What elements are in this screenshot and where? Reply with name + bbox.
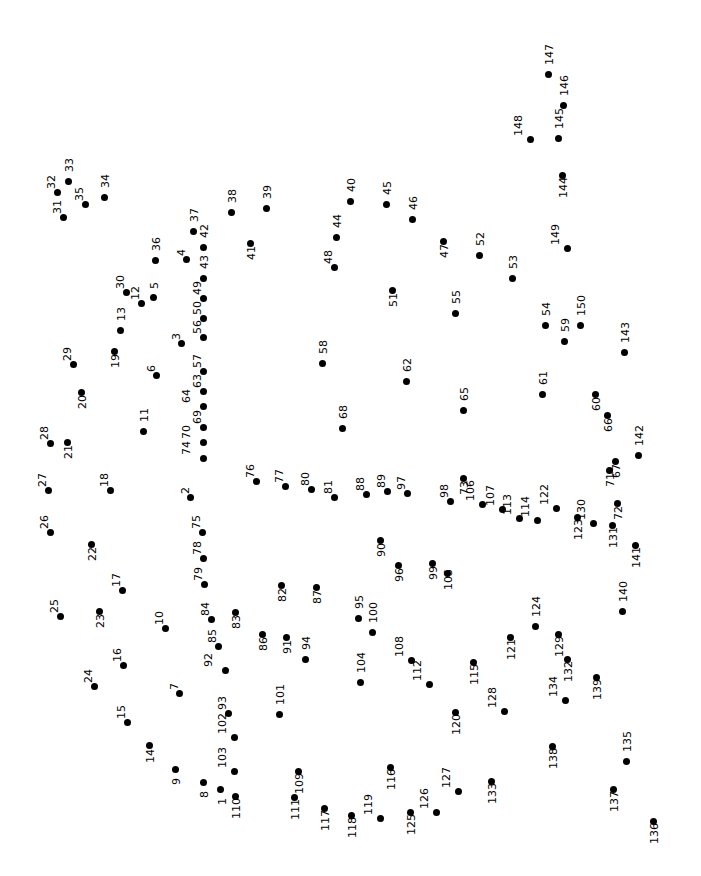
- dot-marker-29[interactable]: [70, 361, 77, 368]
- dot-marker-127[interactable]: [455, 788, 462, 795]
- dot-marker-81[interactable]: [331, 494, 338, 501]
- dot-marker-85[interactable]: [215, 643, 222, 650]
- dot-marker-38[interactable]: [228, 209, 235, 216]
- dot-marker-100[interactable]: [369, 629, 376, 636]
- dot-marker-56[interactable]: [200, 334, 207, 341]
- dot-marker-2[interactable]: [187, 494, 194, 501]
- dot-marker-48[interactable]: [331, 264, 338, 271]
- dot-marker-92[interactable]: [222, 667, 229, 674]
- dot-marker-12[interactable]: [138, 300, 145, 307]
- dot-marker-37[interactable]: [190, 228, 197, 235]
- dot-marker-40[interactable]: [347, 198, 354, 205]
- dot-marker-54[interactable]: [542, 322, 549, 329]
- dot-marker-46[interactable]: [409, 216, 416, 223]
- dot-marker-97[interactable]: [404, 490, 411, 497]
- dot-marker-5[interactable]: [150, 294, 157, 301]
- dot-marker-101[interactable]: [276, 711, 283, 718]
- dot-marker-77[interactable]: [282, 483, 289, 490]
- dot-marker-31[interactable]: [60, 214, 67, 221]
- dot-marker-128[interactable]: [501, 708, 508, 715]
- dot-marker-143[interactable]: [621, 349, 628, 356]
- dot-marker-30[interactable]: [123, 289, 130, 296]
- dot-marker-58[interactable]: [319, 360, 326, 367]
- dot-marker-98[interactable]: [447, 498, 454, 505]
- dot-marker-15[interactable]: [124, 719, 131, 726]
- dot-marker-62[interactable]: [403, 378, 410, 385]
- dot-marker-88[interactable]: [363, 491, 370, 498]
- dot-marker-24[interactable]: [91, 683, 98, 690]
- dot-marker-69[interactable]: [200, 424, 207, 431]
- dot-marker-42[interactable]: [200, 244, 207, 251]
- dot-marker-80[interactable]: [308, 486, 315, 493]
- dot-marker-17[interactable]: [119, 587, 126, 594]
- dot-marker-102[interactable]: [231, 734, 238, 741]
- dot-marker-124[interactable]: [532, 623, 539, 630]
- dot-marker-145[interactable]: [555, 135, 562, 142]
- dot-marker-45[interactable]: [383, 201, 390, 208]
- dot-marker-147[interactable]: [545, 71, 552, 78]
- dot-marker-75[interactable]: [199, 529, 206, 536]
- dot-marker-84[interactable]: [208, 616, 215, 623]
- dot-marker-14[interactable]: [146, 742, 153, 749]
- dot-marker-122[interactable]: [553, 505, 560, 512]
- dot-marker-61[interactable]: [539, 391, 546, 398]
- dot-marker-10[interactable]: [162, 625, 169, 632]
- dot-marker-44[interactable]: [333, 234, 340, 241]
- dot-marker-89[interactable]: [384, 488, 391, 495]
- dot-marker-39[interactable]: [263, 205, 270, 212]
- dot-number-label-117: 117: [320, 810, 331, 831]
- dot-number-label-102: 102: [217, 713, 228, 734]
- dot-marker-148[interactable]: [527, 136, 534, 143]
- dot-marker-112[interactable]: [426, 681, 433, 688]
- dot-marker-18[interactable]: [107, 487, 114, 494]
- dot-marker-52[interactable]: [476, 252, 483, 259]
- dot-marker-76[interactable]: [253, 478, 260, 485]
- dot-marker-36[interactable]: [152, 257, 159, 264]
- dot-marker-68[interactable]: [339, 425, 346, 432]
- dot-marker-70[interactable]: [200, 439, 207, 446]
- dot-marker-25[interactable]: [57, 613, 64, 620]
- dot-marker-103[interactable]: [231, 768, 238, 775]
- dot-marker-150[interactable]: [577, 322, 584, 329]
- dot-marker-7[interactable]: [176, 690, 183, 697]
- dot-marker-8[interactable]: [200, 779, 207, 786]
- dot-marker-4[interactable]: [183, 256, 190, 263]
- dot-marker-26[interactable]: [47, 529, 54, 536]
- dot-number-label-142: 142: [634, 425, 645, 446]
- dot-marker-34[interactable]: [101, 194, 108, 201]
- dot-marker-126[interactable]: [433, 809, 440, 816]
- dot-marker-78[interactable]: [200, 555, 207, 562]
- dot-marker-55[interactable]: [452, 310, 459, 317]
- dot-marker-94[interactable]: [302, 656, 309, 663]
- dot-marker-11[interactable]: [140, 428, 147, 435]
- dot-marker-28[interactable]: [47, 440, 54, 447]
- dot-marker-32[interactable]: [54, 189, 61, 196]
- dot-marker-149[interactable]: [564, 245, 571, 252]
- dot-marker-3[interactable]: [178, 340, 185, 347]
- dot-marker-142[interactable]: [635, 452, 642, 459]
- dot-marker-13[interactable]: [117, 327, 124, 334]
- dot-marker-27[interactable]: [45, 487, 52, 494]
- dot-marker-63[interactable]: [200, 388, 207, 395]
- dot-marker-95[interactable]: [355, 615, 362, 622]
- dot-marker-53[interactable]: [509, 275, 516, 282]
- dot-marker-135[interactable]: [623, 758, 630, 765]
- dot-marker-6[interactable]: [153, 372, 160, 379]
- dot-marker-79[interactable]: [201, 581, 208, 588]
- dot-marker-35[interactable]: [82, 201, 89, 208]
- dot-marker-130[interactable]: [590, 520, 597, 527]
- dot-marker-140[interactable]: [619, 608, 626, 615]
- dot-marker-1[interactable]: [217, 786, 224, 793]
- dot-marker-74[interactable]: [200, 455, 207, 462]
- dot-marker-33[interactable]: [65, 178, 72, 185]
- dot-marker-146[interactable]: [560, 102, 567, 109]
- dot-marker-64[interactable]: [200, 403, 207, 410]
- dot-marker-114[interactable]: [534, 517, 541, 524]
- dot-marker-119[interactable]: [377, 815, 384, 822]
- dot-marker-9[interactable]: [172, 766, 179, 773]
- dot-marker-65[interactable]: [460, 407, 467, 414]
- dot-marker-134[interactable]: [562, 697, 569, 704]
- dot-marker-16[interactable]: [120, 662, 127, 669]
- dot-marker-104[interactable]: [357, 679, 364, 686]
- dot-marker-59[interactable]: [561, 338, 568, 345]
